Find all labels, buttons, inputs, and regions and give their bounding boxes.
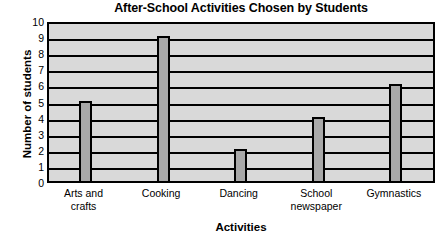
x-axis-tick-label: Gymnastics (366, 187, 421, 200)
plot-area (47, 22, 435, 183)
gridline (49, 136, 433, 138)
y-axis-tick-label: 9 (22, 33, 44, 44)
y-axis-tick-label: 3 (22, 129, 44, 140)
bar (389, 84, 402, 181)
bar (157, 36, 170, 181)
x-axis-tick-label: Dancing (219, 187, 258, 200)
bar-chart: After-School Activities Chosen by Studen… (0, 0, 445, 239)
x-axis-tick-label: Schoolnewspaper (291, 187, 342, 213)
x-axis-tick-label-line1: Gymnastics (366, 187, 421, 199)
y-axis-tick-labels: 012345678910 (22, 22, 44, 183)
bar (234, 149, 247, 181)
y-axis-tick-label: 6 (22, 81, 44, 92)
gridline (49, 39, 433, 41)
gridline (49, 55, 433, 57)
x-axis-tick-label-line1: School (300, 187, 332, 199)
plot-inner (49, 24, 433, 181)
bar (79, 101, 92, 182)
bar (312, 117, 325, 181)
y-axis-tick-label: 8 (22, 49, 44, 60)
y-axis-tick-label: 5 (22, 97, 44, 108)
gridline (49, 87, 433, 89)
y-axis-tick-label: 4 (22, 113, 44, 124)
y-axis-tick-label: 0 (22, 178, 44, 189)
x-axis-tick-label-line1: Cooking (142, 187, 181, 199)
gridline (49, 71, 433, 73)
x-axis-tick-label-line1: Arts and (64, 187, 103, 199)
x-axis-tick-label: Cooking (142, 187, 181, 200)
x-axis-tick-labels: Arts andcraftsCookingDancingSchoolnewspa… (47, 187, 435, 221)
x-axis-title: Activities (47, 221, 435, 233)
x-axis-tick-label-line2: crafts (64, 200, 103, 213)
gridline (49, 104, 433, 106)
y-axis-tick-label: 2 (22, 146, 44, 157)
y-axis-tick-label: 10 (22, 17, 44, 28)
y-axis-tick-label: 7 (22, 65, 44, 76)
x-axis-tick-label-line1: Dancing (219, 187, 258, 199)
gridline (49, 120, 433, 122)
x-axis-tick-label-line2: newspaper (291, 200, 342, 213)
chart-title: After-School Activities Chosen by Studen… (47, 1, 435, 15)
y-axis-tick-label: 1 (22, 162, 44, 173)
x-axis-tick-label: Arts andcrafts (64, 187, 103, 213)
